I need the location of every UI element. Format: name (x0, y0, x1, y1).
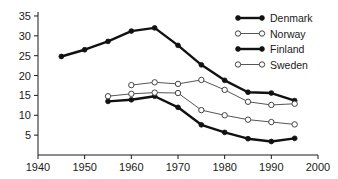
data-point-marker (106, 39, 111, 44)
data-point-marker (246, 136, 251, 141)
x-axis-tick-marks (38, 155, 318, 159)
y-tick-label: 25 (19, 50, 31, 62)
data-point-marker (175, 81, 180, 86)
y-tick-label: 35 (19, 10, 31, 22)
y-axis-tick-marks (34, 16, 38, 135)
legend-item-finland: Finland (236, 43, 305, 55)
legend-item-denmark: Denmark (236, 12, 314, 24)
data-point-marker (176, 105, 181, 110)
legend-marker (259, 31, 264, 36)
data-point-marker (222, 130, 227, 135)
data-point-marker (129, 82, 134, 87)
x-axis-tick-labels: 1940195019601970198019902000 (26, 161, 330, 173)
data-point-marker (199, 77, 204, 82)
y-tick-label: 20 (19, 70, 31, 82)
series-line (108, 96, 295, 141)
legend-marker (235, 62, 240, 67)
data-series-layer (59, 25, 297, 143)
data-point-marker (129, 97, 134, 102)
data-point-marker (129, 91, 134, 96)
data-point-marker (199, 107, 204, 112)
data-point-marker (152, 90, 157, 95)
x-tick-label: 2000 (306, 161, 330, 173)
data-point-marker (152, 25, 157, 30)
data-point-marker (245, 117, 250, 122)
series-finland (106, 94, 297, 144)
chart-canvas: 1940195019601970198019902000 51015202530… (0, 0, 338, 179)
data-point-marker (59, 54, 64, 59)
x-tick-label: 1950 (72, 161, 96, 173)
y-axis-tick-labels: 5101520253035 (19, 10, 31, 141)
data-point-marker (152, 80, 157, 85)
data-point-marker (269, 139, 274, 144)
x-tick-label: 1970 (166, 161, 190, 173)
data-point-marker (292, 122, 297, 127)
data-point-marker (106, 99, 111, 104)
y-tick-label: 10 (19, 109, 31, 121)
data-point-marker (292, 136, 297, 141)
data-point-marker (292, 101, 297, 106)
legend-marker (236, 47, 241, 52)
chart-legend: DenmarkNorwayFinlandSweden (235, 12, 313, 71)
data-point-marker (82, 47, 87, 52)
data-point-marker (199, 122, 204, 127)
data-point-marker (199, 62, 204, 67)
x-tick-label: 1940 (26, 161, 50, 173)
legend-label: Sweden (270, 59, 308, 71)
legend-marker (235, 31, 240, 36)
line-chart-figure: 1940195019601970198019902000 51015202530… (0, 0, 338, 179)
data-point-marker (269, 119, 274, 124)
x-tick-label: 1960 (119, 161, 143, 173)
legend-marker (260, 16, 265, 21)
legend-item-sweden: Sweden (235, 59, 308, 71)
data-point-marker (222, 78, 227, 83)
data-point-marker (246, 90, 251, 95)
legend-label: Finland (270, 43, 305, 55)
y-tick-label: 5 (25, 129, 31, 141)
legend-label: Norway (270, 28, 306, 40)
x-tick-label: 1980 (212, 161, 236, 173)
data-point-marker (245, 99, 250, 104)
y-tick-label: 30 (19, 30, 31, 42)
legend-marker (236, 16, 241, 21)
data-point-marker (105, 94, 110, 99)
legend-marker (259, 62, 264, 67)
legend-label: Denmark (270, 12, 313, 24)
data-point-marker (269, 102, 274, 107)
x-tick-label: 1990 (259, 161, 283, 173)
legend-item-norway: Norway (235, 28, 306, 40)
y-tick-label: 15 (19, 89, 31, 101)
data-point-marker (129, 29, 134, 34)
data-point-marker (176, 43, 181, 48)
data-point-marker (175, 90, 180, 95)
data-point-marker (269, 91, 274, 96)
data-point-marker (222, 87, 227, 92)
legend-marker (260, 47, 265, 52)
series-sweden (105, 90, 297, 127)
data-point-marker (222, 113, 227, 118)
